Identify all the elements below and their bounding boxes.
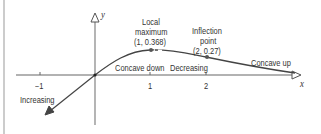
y-axis-label: y xyxy=(101,10,105,20)
function-curve-lower xyxy=(50,75,95,111)
local-maximum-point xyxy=(149,48,153,52)
y-axis-arrow-icon xyxy=(91,13,99,22)
concave-down-label: Concave down xyxy=(115,63,164,73)
local-max-coords: (1, 0.368) xyxy=(134,37,166,47)
lower-arrow-icon xyxy=(45,106,54,115)
concave-up-label: Concave up xyxy=(251,58,291,68)
tick-label-neg1: −1 xyxy=(35,81,44,91)
decreasing-label: Decreasing xyxy=(170,63,208,73)
origin-point xyxy=(93,73,96,76)
increasing-label: Increasing xyxy=(20,95,55,105)
inflection-coords: (2, 0.27) xyxy=(193,46,221,56)
inflection-label-line2: point xyxy=(200,36,216,46)
x-axis-label: x xyxy=(300,79,304,89)
tick-label-2: 2 xyxy=(204,81,208,91)
local-max-label-line1: Local xyxy=(142,17,160,27)
local-max-label-line2: maximum xyxy=(135,27,167,37)
tick-label-1: 1 xyxy=(148,81,152,91)
inflection-label-line1: Inflection xyxy=(192,26,222,36)
